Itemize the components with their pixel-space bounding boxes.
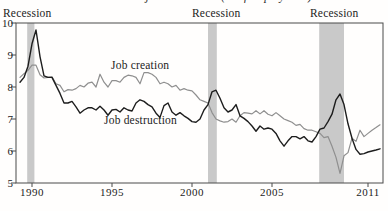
recession-band-3 [319, 23, 344, 183]
x-tick-label-2005: 2005 [252, 186, 292, 198]
plot-area [0, 0, 388, 211]
y-tick-label-8: 8 [0, 81, 13, 94]
series-label-job-destruction: Job destruction [104, 114, 177, 126]
job-flows-chart: Job creation and job destruction (% of e… [0, 0, 388, 211]
x-tick-label-1990: 1990 [12, 186, 52, 198]
y-tick-label-9: 9 [0, 49, 13, 62]
recession-band-2 [208, 23, 217, 183]
y-tick-label-10: 10 [0, 17, 13, 30]
x-tick-label-2011: 2011 [348, 186, 388, 198]
y-tick-label-6: 6 [0, 145, 13, 158]
y-tick-label-7: 7 [0, 113, 13, 126]
series-label-job-creation: Job creation [111, 59, 169, 71]
x-tick-label-2000: 2000 [172, 186, 212, 198]
x-tick-label-1995: 1995 [92, 186, 132, 198]
